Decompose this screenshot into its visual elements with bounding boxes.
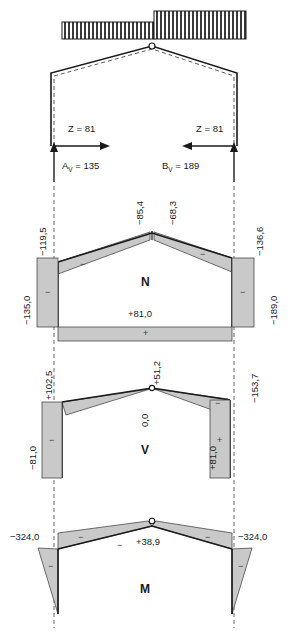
reaction-right-value: = 189 xyxy=(175,160,199,171)
n-label-right-column: −189,0 xyxy=(269,296,279,325)
n-sign-right-column: − xyxy=(240,288,245,297)
n-sign-tie: + xyxy=(143,329,148,338)
m-sign-left-column: − xyxy=(48,562,53,571)
n-label-tie: +81,0 xyxy=(128,309,152,319)
v-sign-right-rafter: − xyxy=(215,399,220,408)
v-label-right-column: +81,0 xyxy=(208,446,218,470)
n-label-right-rafter: −136,6 xyxy=(255,227,265,256)
reaction-left-value: = 135 xyxy=(75,160,99,171)
reaction-label-right: BV = 189 xyxy=(162,161,199,173)
v-label-ridge: +51,2 xyxy=(152,361,162,385)
m-sign-right-column: − xyxy=(238,562,243,571)
n-diagram-label: N xyxy=(141,276,150,288)
reaction-arrow-left xyxy=(50,142,58,182)
v-sign-right-column: + xyxy=(217,436,222,445)
tie-arrow-left xyxy=(54,142,110,150)
m-label-right-knee: −324,0 xyxy=(238,532,267,542)
diagram-V xyxy=(42,385,230,478)
ridge-hinge-icon xyxy=(149,43,155,49)
figure-canvas: Z = 81 Z = 81 AV = 135 BV = 189 −119,5 −… xyxy=(0,0,291,634)
m-label-left-knee: −324,0 xyxy=(10,532,39,542)
m-sign-left-rafter: − xyxy=(78,533,83,542)
load-block-right xyxy=(154,11,246,39)
n-sign-left-column: − xyxy=(45,288,50,297)
m-sign-right-rafter: − xyxy=(205,533,210,542)
v-label-left-column: −81,0 xyxy=(28,446,38,470)
v-label-ridge-zero: 0,0 xyxy=(140,414,150,427)
m-label-ridge: +38,9 xyxy=(136,537,160,547)
tie-label-right: Z = 81 xyxy=(196,124,223,134)
n-sign-right-rafter: − xyxy=(200,250,205,259)
tie-label-left: Z = 81 xyxy=(68,124,95,134)
n-sign-left-rafter: − xyxy=(80,260,85,269)
reaction-arrow-right xyxy=(230,142,238,182)
reaction-label-left: AV = 135 xyxy=(62,161,99,173)
v-label-right-knee: −153,7 xyxy=(250,374,260,403)
n-label-ridge-right: −68,3 xyxy=(168,201,178,225)
n-label-left-column: −135,0 xyxy=(22,296,32,325)
load-block-left xyxy=(62,22,154,39)
v-sign-left-column: − xyxy=(49,436,54,445)
reaction-right-subscript: V xyxy=(168,166,172,173)
m-sign-ridge: − xyxy=(117,541,122,550)
m-diagram-label: M xyxy=(140,583,150,595)
v-diagram-label: V xyxy=(141,444,149,456)
reaction-left-subscript: V xyxy=(68,166,72,173)
n-label-left-rafter: −119,5 xyxy=(38,227,48,256)
diagram-M xyxy=(38,518,252,614)
tie-arrow-right xyxy=(182,142,234,150)
n-label-ridge-left: −85,4 xyxy=(135,201,145,225)
v-label-left-knee: +102,5 xyxy=(44,371,54,400)
